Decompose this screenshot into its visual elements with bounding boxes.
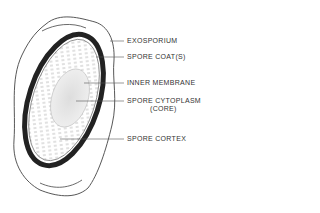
label-spore-cortex: SPORE CORTEX — [127, 135, 186, 143]
label-spore-cytoplasm: SPORE CYTOPLASM — [127, 97, 201, 105]
label-core: (CORE) — [150, 105, 177, 113]
label-spore-coat: SPORE COAT(S) — [127, 53, 186, 61]
label-inner-membrane: INNER MEMBRANE — [127, 79, 195, 87]
label-exosporium: EXOSPORIUM — [127, 37, 177, 45]
